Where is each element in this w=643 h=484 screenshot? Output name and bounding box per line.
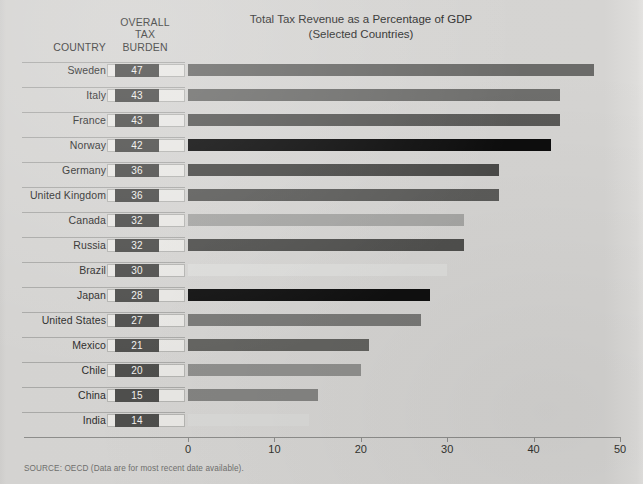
value-badge-right-cap [159, 364, 185, 377]
bar [188, 314, 421, 326]
x-axis-tick-label: 0 [168, 443, 208, 455]
value-badge-left-cap [107, 214, 115, 227]
value-badge-left-cap [107, 139, 115, 152]
value-badge-left-cap [107, 339, 115, 352]
table-row: Sweden47 [0, 62, 643, 87]
overall-tax-burden-value: 43 [115, 89, 159, 102]
value-badge-left-cap [107, 89, 115, 102]
country-label: Chile [22, 364, 106, 377]
bar [188, 364, 361, 376]
bar [188, 389, 318, 401]
bar [188, 239, 464, 251]
value-badge-right-cap [159, 114, 185, 127]
bar [188, 214, 464, 226]
bar [188, 89, 560, 101]
overall-tax-burden-value: 14 [115, 414, 159, 427]
overall-tax-burden-value: 43 [115, 114, 159, 127]
value-badge-right-cap [159, 64, 185, 77]
table-row: Chile20 [0, 362, 643, 387]
table-row: Mexico21 [0, 337, 643, 362]
bar [188, 289, 430, 301]
overall-tax-burden-value: 32 [115, 214, 159, 227]
overall-tax-burden-value: 15 [115, 389, 159, 402]
country-label: Italy [22, 89, 106, 102]
value-badge-left-cap [107, 364, 115, 377]
overall-tax-burden-value: 27 [115, 314, 159, 327]
burden-header-line-1: OVERALL [120, 16, 170, 28]
bar [188, 114, 560, 126]
value-badge-right-cap [159, 139, 185, 152]
country-label: Mexico [22, 339, 106, 352]
country-label: Norway [22, 139, 106, 152]
country-label: India [22, 414, 106, 427]
x-axis-tick-label: 20 [341, 443, 381, 455]
x-axis-tick-label: 40 [514, 443, 554, 455]
x-axis-tick [620, 437, 621, 442]
value-badge-left-cap [107, 414, 115, 427]
table-row: United States27 [0, 312, 643, 337]
source-note: SOURCE: OECD (Data are for most recent d… [24, 464, 244, 473]
chart-title-main: Total Tax Revenue as a Percentage of GDP [250, 13, 472, 25]
x-axis-tick-label: 10 [254, 443, 294, 455]
table-row: Canada32 [0, 212, 643, 237]
value-badge-left-cap [107, 314, 115, 327]
bar [188, 339, 369, 351]
chart-subtitle: (Selected Countries) [196, 27, 526, 42]
burden-header-line-3: BURDEN [122, 41, 167, 53]
bar [188, 414, 309, 426]
table-row: India14 [0, 412, 643, 437]
column-header-overall-tax-burden: OVERALL TAX BURDEN [108, 16, 182, 53]
overall-tax-burden-value: 32 [115, 239, 159, 252]
overall-tax-burden-value: 36 [115, 164, 159, 177]
value-badge-right-cap [159, 264, 185, 277]
x-axis-tick [534, 437, 535, 442]
country-label: France [22, 114, 106, 127]
table-row: Norway42 [0, 137, 643, 162]
country-label: United Kingdom [22, 189, 106, 202]
value-badge-left-cap [107, 289, 115, 302]
value-badge-left-cap [107, 239, 115, 252]
column-header-country: COUNTRY [28, 41, 106, 53]
value-badge-left-cap [107, 189, 115, 202]
value-badge-right-cap [159, 189, 185, 202]
x-axis-tick [361, 437, 362, 442]
bar [188, 189, 499, 201]
overall-tax-burden-value: 28 [115, 289, 159, 302]
table-row: Japan28 [0, 287, 643, 312]
table-row: United Kingdom36 [0, 187, 643, 212]
value-badge-left-cap [107, 389, 115, 402]
bar [188, 64, 594, 76]
value-badge-right-cap [159, 339, 185, 352]
value-badge-right-cap [159, 239, 185, 252]
value-badge-right-cap [159, 314, 185, 327]
country-label: Brazil [22, 264, 106, 277]
bar [188, 139, 551, 151]
value-badge-left-cap [107, 164, 115, 177]
table-row: Italy43 [0, 87, 643, 112]
table-row: France43 [0, 112, 643, 137]
x-axis-tick-label: 50 [600, 443, 640, 455]
scanned-page: OVERALL TAX BURDEN COUNTRY Total Tax Rev… [0, 0, 643, 484]
x-axis-tick [188, 437, 189, 442]
overall-tax-burden-value: 30 [115, 264, 159, 277]
value-badge-right-cap [159, 164, 185, 177]
value-badge-right-cap [159, 89, 185, 102]
chart-title: Total Tax Revenue as a Percentage of GDP… [196, 12, 526, 42]
table-row: Germany36 [0, 162, 643, 187]
country-label: Russia [22, 239, 106, 252]
value-badge-right-cap [159, 289, 185, 302]
country-label: Germany [22, 164, 106, 177]
table-row: Brazil30 [0, 262, 643, 287]
x-axis-tick [447, 437, 448, 442]
overall-tax-burden-value: 36 [115, 189, 159, 202]
value-badge-left-cap [107, 264, 115, 277]
table-row: China15 [0, 387, 643, 412]
overall-tax-burden-value: 42 [115, 139, 159, 152]
country-label: Sweden [22, 64, 106, 77]
value-badge-right-cap [159, 214, 185, 227]
value-badge-right-cap [159, 414, 185, 427]
value-badge-left-cap [107, 114, 115, 127]
x-axis-tick [274, 437, 275, 442]
burden-header-line-2: TAX [135, 28, 155, 40]
country-label: Japan [22, 289, 106, 302]
